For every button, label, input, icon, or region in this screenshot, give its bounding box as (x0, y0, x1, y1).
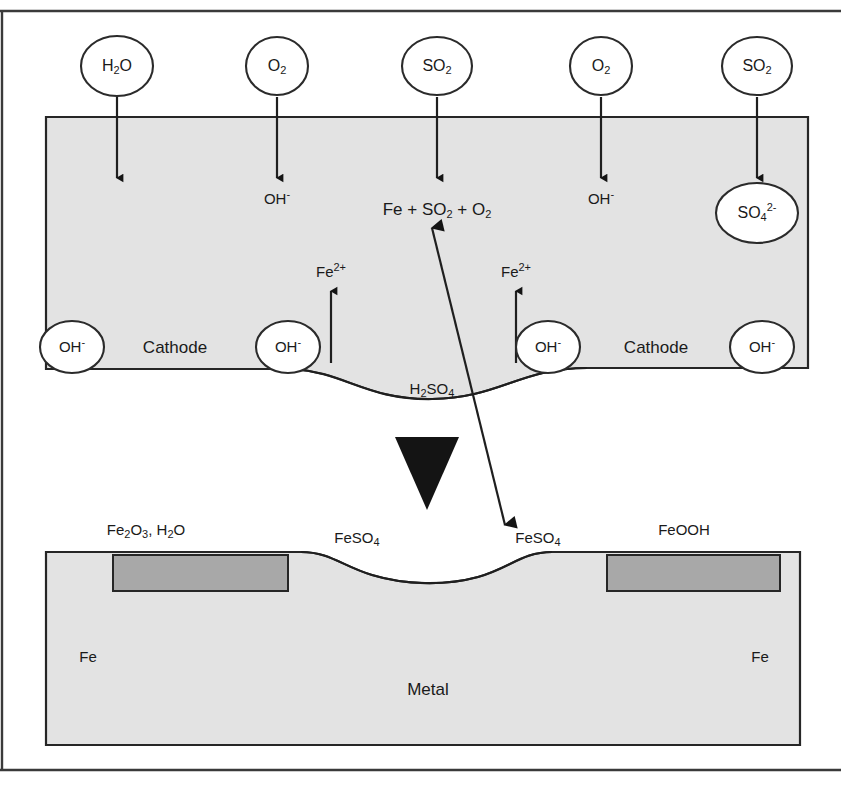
label-fe2o3-h2o: Fe2O3, H2O (107, 521, 185, 540)
cathode-label-left: Cathode (143, 338, 207, 357)
bubble-o2-2: O2 (570, 37, 632, 95)
corrosion-diagram: H2O O2 SO2 O2 SO2 (0, 0, 841, 788)
oh-bubble-2: OH- (256, 321, 320, 373)
label-feooh: FeOOH (658, 521, 710, 538)
oh-bubble-3: OH- (516, 321, 580, 373)
oh-bubble-4: OH- (730, 321, 794, 373)
metal-label-metal: Metal (407, 680, 449, 699)
figure-canvas: H2O O2 SO2 O2 SO2 (0, 0, 841, 788)
oxide-block-fe2o3 (113, 555, 288, 591)
bubble-so4: SO42- (716, 183, 798, 243)
cathode-label-right: Cathode (624, 338, 688, 357)
bubble-so2-1: SO2 (402, 37, 472, 95)
gas-bubble-group: H2O O2 SO2 O2 SO2 (81, 36, 792, 96)
bubble-so2-2: SO2 (722, 37, 792, 95)
bubble-o2-1: O2 (246, 37, 308, 95)
marker-triangle-down-icon (395, 437, 459, 510)
oxide-block-feooh (607, 555, 780, 591)
label-feso4-left: FeSO4 (334, 529, 379, 548)
metal-label-fe-right: Fe (751, 648, 769, 665)
metal-label-fe-left: Fe (79, 648, 97, 665)
reaction-label: Fe + SO2 + O2 (383, 200, 492, 219)
oh-bubble-1: OH- (40, 321, 104, 373)
label-feso4-right: FeSO4 (515, 529, 560, 548)
bubble-h2o: H2O (81, 36, 153, 96)
h2so4-label: H2SO4 (410, 380, 455, 399)
